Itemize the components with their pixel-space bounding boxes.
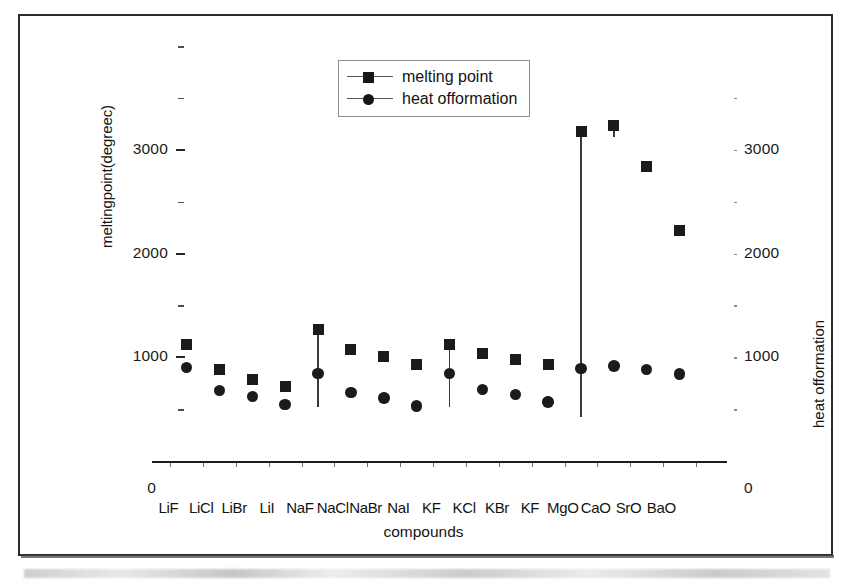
x-axis-category-label: LiI	[251, 499, 284, 516]
y-axis-minor-tick-left	[178, 305, 184, 307]
data-point-melting-point	[247, 374, 258, 385]
y-axis-tick-left	[176, 149, 185, 151]
data-point-melting-point	[444, 339, 455, 350]
x-axis-tick-labels: LiFLiClLiBrLiINaFNaClNaBrNaIKFKClKBrKFMg…	[152, 499, 732, 516]
y-axis-tick-right	[734, 150, 737, 152]
data-point-heat-of-formation	[345, 387, 357, 399]
y-axis-minor-tick-left	[178, 409, 184, 411]
data-point-heat-of-formation	[279, 399, 291, 411]
y-axis-minor-tick-right	[734, 98, 737, 100]
data-point-melting-point	[477, 348, 488, 359]
data-point-melting-point	[543, 359, 554, 370]
x-axis-category-label: SrO	[612, 499, 645, 516]
x-axis-category-label: LiCl	[185, 499, 218, 516]
data-point-heat-of-formation	[542, 396, 554, 408]
y-axis-tick-label-left: 1000	[108, 347, 168, 365]
y-axis-tick-label-left: 2000	[108, 244, 168, 262]
x-axis-category-label: KCl	[448, 499, 481, 516]
y-axis-origin-label-left: 0	[116, 479, 156, 497]
y-axis-tick-right	[734, 357, 737, 359]
y-axis-tick-label-right: 3000	[744, 140, 779, 158]
y-axis-title-left: meltingpoint(degreec)	[98, 105, 115, 248]
data-point-melting-point	[608, 120, 619, 131]
y-axis-tick-label-right: 2000	[744, 244, 779, 262]
y-axis-minor-tick-left	[178, 46, 184, 48]
y-axis-tick-right	[734, 254, 737, 256]
x-axis-category-label: NaF	[283, 499, 316, 516]
data-point-heat-of-formation	[378, 392, 390, 404]
x-axis-category-label: LiF	[152, 499, 185, 516]
data-point-melting-point	[411, 359, 422, 370]
x-axis-category-label: CaO	[579, 499, 612, 516]
y-axis-origin-label-right: 0	[744, 479, 753, 497]
scan-artifact	[24, 569, 830, 578]
y-axis-tick-left	[176, 253, 185, 255]
data-point-heat-of-formation	[411, 400, 423, 412]
plot-area	[152, 46, 724, 461]
x-axis-category-label: MgO	[546, 499, 579, 516]
data-point-melting-point	[280, 381, 291, 392]
data-point-melting-point	[674, 225, 685, 236]
data-point-melting-point	[345, 344, 356, 355]
y-axis-minor-tick-right	[734, 202, 737, 204]
y-axis-title-right: heat offormation	[810, 320, 827, 428]
y-axis-minor-tick-right	[734, 305, 737, 307]
data-point-heat-of-formation	[674, 368, 686, 380]
y-axis-tick-label-right: 1000	[744, 347, 779, 365]
data-point-heat-of-formation	[575, 363, 587, 375]
x-axis-category-label: KF	[415, 499, 448, 516]
x-axis-category-label: NaCl	[316, 499, 349, 516]
x-axis-title: compounds	[20, 523, 851, 541]
x-axis-category-label: LiBr	[218, 499, 251, 516]
x-axis-category-label: NaI	[382, 499, 415, 516]
data-point-melting-point	[378, 351, 389, 362]
figure-frame: melting point heat offormation meltingpo…	[18, 14, 833, 556]
data-point-melting-point	[641, 161, 652, 172]
x-axis-category-label: NaBr	[349, 499, 382, 516]
y-axis-minor-tick-right	[734, 409, 737, 411]
y-axis-minor-tick-left	[178, 98, 184, 100]
data-point-melting-point	[576, 126, 587, 137]
y-axis-tick-left	[176, 356, 185, 358]
y-axis-minor-tick-left	[178, 202, 184, 204]
data-point-heat-of-formation	[312, 368, 324, 380]
data-point-melting-point	[510, 354, 521, 365]
data-point-melting-point	[313, 324, 324, 335]
x-axis-ticks	[20, 463, 835, 468]
x-axis-category-label: KBr	[481, 499, 514, 516]
x-axis-category-label: BaO	[645, 499, 678, 516]
data-point-melting-point	[214, 364, 225, 375]
data-point-melting-point	[181, 339, 192, 350]
y-axis-tick-label-left: 3000	[108, 140, 168, 158]
data-point-heat-of-formation	[608, 360, 620, 372]
x-axis-category-label: KF	[513, 499, 546, 516]
